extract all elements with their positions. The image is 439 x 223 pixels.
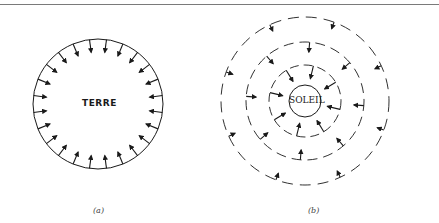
field-arrow (297, 123, 300, 136)
field-arrow (146, 124, 158, 129)
field-arrow (317, 121, 324, 132)
field-arrow (139, 136, 149, 144)
field-arrow (118, 152, 123, 164)
field-arrow (38, 79, 50, 84)
field-arrow (58, 145, 66, 155)
field-arrow (226, 72, 233, 74)
field-arrow (150, 111, 163, 113)
field-arrow (46, 136, 56, 144)
field-arrow (270, 93, 283, 96)
field-arrow (229, 133, 235, 136)
field-arrow (150, 96, 163, 98)
field-arrow (377, 128, 384, 130)
field-arrow (342, 63, 350, 69)
field-arrow (105, 156, 107, 169)
field-arrow (34, 111, 47, 113)
field-arrow (58, 52, 66, 62)
figure: TERRE SOLEIL (a) (b) (0, 0, 439, 223)
field-arrow (325, 82, 336, 89)
field-arrow (286, 70, 293, 81)
field-arrow (310, 66, 313, 79)
field-arrow (337, 171, 340, 177)
field-arrow (139, 64, 149, 72)
field-arrow (90, 156, 92, 169)
field-arrow (300, 150, 301, 160)
field-arrow (274, 113, 285, 120)
field-arrow (105, 40, 107, 53)
caption-a: (a) (93, 206, 104, 215)
field-arrow (130, 145, 138, 155)
field-arrow (34, 96, 47, 98)
field-arrow (270, 25, 273, 31)
field-arrow (375, 66, 381, 69)
field-arrow (309, 42, 310, 52)
field-arrow (354, 105, 364, 106)
diagram-canvas (0, 0, 439, 223)
field-arrow (246, 96, 256, 97)
field-arrow (146, 79, 158, 84)
field-arrow (327, 106, 340, 109)
sun-label: SOLEIL (289, 95, 325, 105)
field-arrow (276, 173, 278, 180)
field-arrow (73, 44, 78, 56)
field-arrow (73, 152, 78, 164)
field-arrow (130, 52, 138, 62)
field-arrow (267, 56, 273, 64)
field-arrow (118, 44, 123, 56)
field-arrow (38, 124, 50, 129)
field-arrow (332, 22, 334, 29)
earth-label: TERRE (82, 98, 117, 108)
caption-b: (b) (308, 206, 319, 215)
field-arrow (46, 64, 56, 72)
field-arrow (260, 133, 268, 139)
field-arrow (337, 138, 343, 146)
field-arrow (90, 40, 92, 53)
